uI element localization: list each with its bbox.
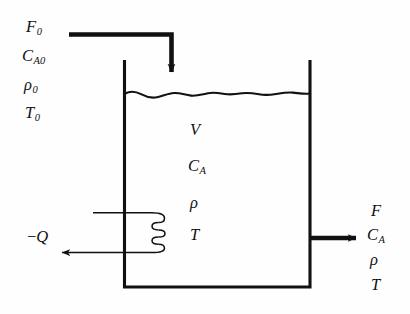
contents-conc-subscript: A	[199, 165, 206, 176]
liquid-level-line	[125, 92, 310, 98]
inlet-label-temperature: T0	[25, 105, 40, 123]
inlet-temp-symbol: T	[25, 103, 34, 122]
outlet-conc-subscript: A	[378, 234, 385, 245]
outlet-temp-symbol: T	[371, 275, 380, 294]
contents-label-volume: V	[190, 122, 201, 140]
outlet-density-symbol: ρ	[370, 250, 378, 269]
contents-conc-symbol: C	[188, 156, 199, 175]
outlet-label-flow: F	[371, 203, 382, 221]
contents-density-symbol: ρ	[190, 193, 198, 212]
inlet-conc-symbol: C	[22, 46, 33, 65]
inlet-label-concentration: CA0	[22, 48, 45, 66]
inlet-label-flow: F0	[26, 19, 42, 37]
outlet-flow-symbol: F	[371, 201, 381, 220]
volume-symbol: V	[190, 120, 200, 139]
outlet-label-temperature: T	[371, 277, 381, 295]
inlet-density-symbol: ρ	[24, 75, 32, 94]
outlet-label-density: ρ	[370, 252, 379, 270]
contents-temp-symbol: T	[190, 225, 199, 244]
inlet-density-subscript: 0	[32, 84, 38, 95]
heat-sign: −	[27, 227, 36, 246]
cstr-diagram-canvas: F0 CA0 ρ0 T0 V CA ρ T F CA ρ T −Q	[0, 0, 410, 314]
heat-removal-label: −Q	[27, 229, 48, 246]
inlet-label-density: ρ0	[24, 77, 38, 95]
contents-label-concentration: CA	[188, 158, 206, 176]
inlet-temp-subscript: 0	[34, 112, 40, 123]
diagram-graphics	[0, 0, 410, 314]
cooling-coil	[62, 213, 165, 253]
inlet-flow-subscript: 0	[36, 26, 42, 37]
outlet-label-concentration: CA	[367, 227, 385, 245]
contents-label-density: ρ	[190, 195, 199, 213]
inlet-flow-symbol: F	[26, 17, 36, 36]
contents-label-temperature: T	[190, 227, 200, 245]
inlet-pipe-arrow	[69, 35, 172, 73]
heat-symbol: Q	[36, 227, 48, 246]
outlet-conc-symbol: C	[367, 225, 378, 244]
inlet-conc-subscript: A0	[33, 55, 45, 66]
